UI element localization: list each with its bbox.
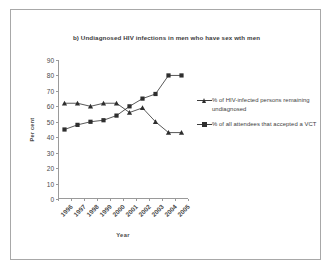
series-line [65,75,182,129]
x-axis-title: Year [58,232,188,238]
series-layer [58,60,188,199]
chart-title: b) Undiagnosed HIV infections in men who… [11,34,322,41]
x-tick-label: 2004 [162,203,177,218]
y-tick-mark [56,75,58,76]
x-tick-label: 2002 [136,203,151,218]
plot-wrapper: 0102030405060708090199619971998199920002… [58,60,188,199]
triangle-data-point [127,110,132,115]
x-tick-label: 2000 [110,203,125,218]
x-tick-mark [149,199,150,201]
square-data-point [140,97,144,101]
y-tick-label: 90 [47,57,54,64]
chart-legend: % of HIV-infected persons remaining undi… [197,96,317,136]
y-tick-mark [56,137,58,138]
x-tick-mark [110,199,111,201]
y-tick-mark [56,60,58,61]
square-data-point [114,114,118,118]
y-tick-label: 70 [47,87,54,94]
x-tick-mark [58,199,59,201]
square-data-point [62,127,66,131]
x-tick-label: 1999 [97,203,112,218]
y-tick-mark [56,153,58,154]
y-tick-label: 0 [50,196,54,203]
y-tick-label: 80 [47,72,54,79]
triangle-data-point [140,105,145,110]
y-tick-label: 20 [47,165,54,172]
y-tick-label: 40 [47,134,54,141]
square-data-point [166,73,170,77]
x-tick-mark [188,199,189,201]
x-tick-mark [136,199,137,201]
y-tick-mark [56,91,58,92]
x-tick-label: 2005 [175,203,190,218]
x-tick-label: 1998 [84,203,99,218]
x-tick-label: 2001 [123,203,138,218]
y-tick-mark [56,184,58,185]
x-tick-mark [97,199,98,201]
x-tick-mark [123,199,124,201]
square-marker-icon [197,121,212,129]
x-tick-mark [175,199,176,201]
y-axis-title: Per cent [29,60,39,199]
legend-item: % of HIV-infected persons remaining undi… [197,96,317,113]
legend-item-label: % of all attendees that accepted a VCT [212,120,316,129]
legend-item: % of all attendees that accepted a VCT [197,120,317,129]
triangle-marker-icon [197,97,212,105]
series-line [65,103,182,132]
square-data-point [88,120,92,124]
figure-frame: b) Undiagnosed HIV infections in men who… [10,9,321,260]
square-data-point [153,92,157,96]
y-tick-label: 10 [47,180,54,187]
square-data-point [127,104,131,108]
y-tick-mark [56,106,58,107]
square-data-point [101,118,105,122]
x-tick-label: 1996 [58,203,73,218]
y-tick-label: 60 [47,103,54,110]
y-tick-mark [56,168,58,169]
y-tick-label: 50 [47,118,54,125]
x-tick-mark [162,199,163,201]
x-tick-mark [71,199,72,201]
square-data-point [75,123,79,127]
y-tick-label: 30 [47,149,54,156]
x-tick-mark [84,199,85,201]
y-tick-mark [56,122,58,123]
x-tick-label: 1997 [71,203,86,218]
square-data-point [179,73,183,77]
x-tick-label: 2003 [149,203,164,218]
legend-item-label: % of HIV-infected persons remaining undi… [212,96,317,113]
